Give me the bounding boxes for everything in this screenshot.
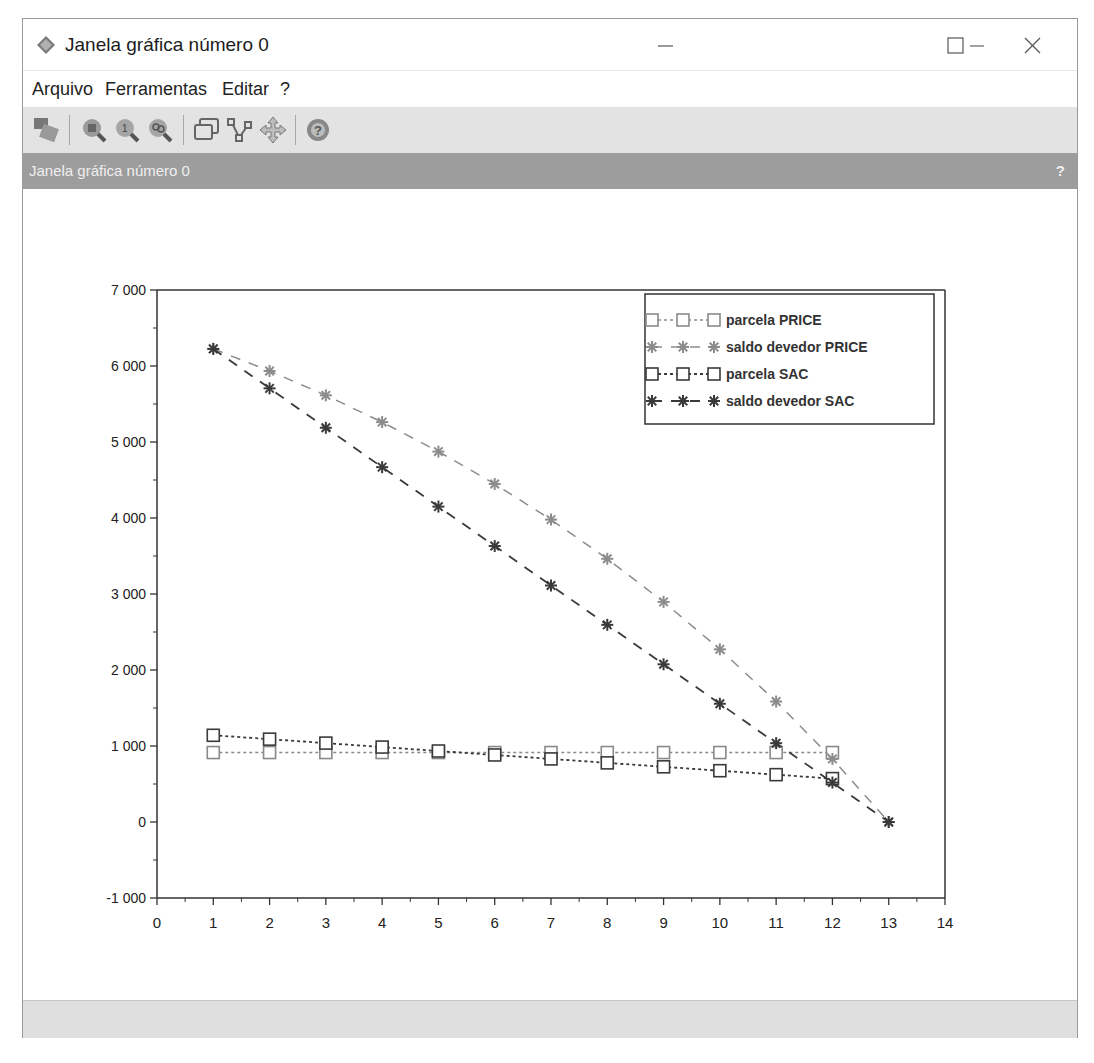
x-tick-label: 5 — [434, 914, 442, 931]
x-tick-label: 7 — [547, 914, 555, 931]
close-icon — [1012, 30, 1052, 60]
menu-bar: Arquivo Ferramentas Editar ? — [23, 70, 1077, 108]
x-tick-label: 4 — [378, 914, 386, 931]
x-tick-label: 3 — [322, 914, 330, 931]
datatip-button[interactable] — [192, 115, 222, 145]
zoom-reset-button[interactable]: 1 — [112, 115, 142, 145]
rotate-icon — [258, 115, 288, 145]
legend-label: saldo devedor PRICE — [726, 339, 868, 355]
rotate-button[interactable] — [258, 115, 288, 145]
edit-curve-button[interactable] — [225, 115, 255, 145]
y-tick-label: 4 000 — [111, 510, 146, 526]
menu-arquivo[interactable]: Arquivo — [32, 79, 93, 100]
close-button[interactable] — [1012, 30, 1052, 60]
x-tick-label: 10 — [712, 914, 729, 931]
y-tick-label: 2 000 — [111, 662, 146, 678]
y-tick-label: -1 000 — [106, 890, 146, 906]
toolbar: 1 ? — [23, 107, 1077, 153]
y-tick-label: 1 000 — [111, 738, 146, 754]
select-button[interactable] — [31, 115, 61, 145]
x-axis-ticks: 01234567891011121314 — [153, 898, 954, 931]
x-tick-label: 6 — [491, 914, 499, 931]
toolbar-separator — [183, 115, 184, 145]
y-tick-label: 3 000 — [111, 586, 146, 602]
help-icon: ? — [303, 115, 333, 145]
toolbar-separator — [295, 115, 296, 145]
x-tick-label: 12 — [824, 914, 841, 931]
zoom-reset-icon: 1 — [112, 115, 142, 145]
zoom-out-button[interactable] — [145, 115, 175, 145]
menu-ferramentas[interactable]: Ferramentas — [105, 79, 207, 100]
maximize-icon — [935, 30, 975, 60]
x-tick-label: 11 — [768, 914, 784, 931]
scilab-app-icon — [37, 36, 55, 54]
zoom-in-icon — [79, 115, 109, 145]
x-tick-label: 9 — [659, 914, 667, 931]
menu-help[interactable]: ? — [280, 79, 290, 100]
status-bar — [23, 1000, 1077, 1038]
x-tick-label: 2 — [265, 914, 273, 931]
help-button[interactable]: ? — [303, 115, 333, 145]
edit-curve-icon — [225, 115, 255, 145]
zoom-out-icon — [145, 115, 175, 145]
title-bar: Janela gráfica número 0 — [23, 19, 1077, 71]
series-parcela-sac — [207, 729, 838, 784]
y-tick-label: 5 000 — [111, 434, 146, 450]
svg-text:?: ? — [314, 123, 322, 138]
maximize-button[interactable] — [935, 30, 975, 60]
minimize-button[interactable] — [645, 30, 685, 60]
y-tick-label: 0 — [138, 814, 146, 830]
toolbar-separator — [69, 115, 70, 145]
y-tick-label: 7 000 — [111, 282, 146, 298]
x-tick-label: 13 — [880, 914, 897, 931]
menu-editar[interactable]: Editar — [222, 79, 269, 100]
select-icon — [31, 115, 61, 145]
dock-title: Janela gráfica número 0 — [29, 162, 190, 179]
x-tick-label: 8 — [603, 914, 611, 931]
svg-text:1: 1 — [122, 123, 128, 134]
window-title: Janela gráfica número 0 — [65, 34, 269, 56]
x-tick-label: 0 — [153, 914, 161, 931]
datatip-icon — [192, 115, 222, 145]
x-tick-label: 1 — [209, 914, 217, 931]
legend: parcela PRICEsaldo devedor PRICEparcela … — [645, 294, 934, 424]
minimize-icon — [645, 30, 685, 60]
legend-label: saldo devedor SAC — [726, 393, 854, 409]
y-tick-label: 6 000 — [111, 358, 146, 374]
dock-help-button[interactable]: ? — [1056, 162, 1065, 179]
legend-label: parcela PRICE — [726, 312, 822, 328]
zoom-in-button[interactable] — [79, 115, 109, 145]
x-tick-label: 14 — [937, 914, 954, 931]
plot-canvas[interactable]: -1 00001 0002 0003 0004 0005 0006 0007 0… — [23, 189, 1077, 1000]
legend-label: parcela SAC — [726, 366, 808, 382]
y-axis-ticks: -1 00001 0002 0003 0004 0005 0006 0007 0… — [106, 282, 157, 906]
series-parcela-price — [207, 747, 838, 759]
dock-title-bar: Janela gráfica número 0 ? — [23, 153, 1077, 189]
